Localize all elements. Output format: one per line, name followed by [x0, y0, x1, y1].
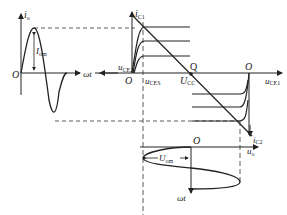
input-wt-label: ωt — [83, 69, 92, 79]
input-origin-label: O — [12, 69, 19, 80]
t2-curve-2 — [192, 80, 248, 94]
q-point — [189, 72, 193, 76]
char-origin-right: O — [245, 61, 252, 72]
uces-label: uCES — [145, 76, 161, 86]
output-origin-label: O — [193, 135, 200, 146]
io-axis-label: io — [24, 9, 30, 21]
q-label: Q — [190, 61, 198, 72]
char-origin-left: O — [125, 75, 132, 86]
uce2-label: uCE2 — [118, 62, 133, 73]
output-wt-label: ωt — [177, 193, 186, 203]
t2-curve-1 — [192, 73, 249, 107]
ic1-label: iC1 — [135, 8, 145, 20]
input-sine-wave — [21, 28, 67, 112]
t1-curve-1 — [132, 27, 190, 73]
load-line — [133, 16, 252, 136]
push-pull-diagram: io O ωt Iom iC1 uCE2 O — [0, 0, 287, 215]
input-current-plot: io O ωt Iom — [12, 9, 92, 112]
ic2-label: iC2 — [253, 135, 263, 145]
uo-label: uo — [247, 146, 255, 157]
output-characteristics: iC1 uCE2 O uCES UCC Q O uCE1 iC2 — [95, 8, 282, 215]
uce1-label: uCE1 — [265, 76, 280, 86]
